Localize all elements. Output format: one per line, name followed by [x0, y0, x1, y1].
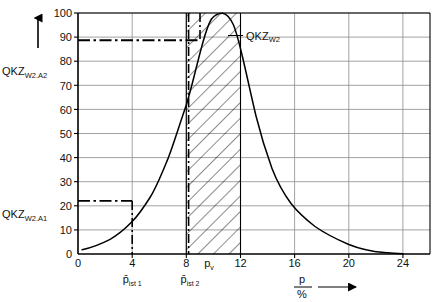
- tolerance-band: [186, 13, 240, 254]
- y-tick-100: 100: [54, 7, 72, 19]
- y-tick-0: 0: [66, 248, 72, 260]
- y-tick-70: 70: [60, 80, 72, 92]
- tolerance-band-hatch: [186, 13, 240, 254]
- x-tick-4: 4: [129, 257, 135, 269]
- y-tick-20: 20: [60, 200, 72, 212]
- chart-figure: QKZW2 100 90 80 70 60 50 40 30 20 10 0: [0, 0, 442, 302]
- y-tick-60: 60: [60, 104, 72, 116]
- y-tick-80: 80: [60, 55, 72, 67]
- curve-label-main: QKZ: [246, 30, 269, 42]
- y-tick-30: 30: [60, 176, 72, 188]
- x-tick-8: 8: [183, 257, 189, 269]
- curve-label-sub: W2: [269, 35, 280, 44]
- qkz-w2-a2-main: QKZ: [2, 65, 25, 77]
- x-tick-20: 20: [343, 257, 355, 269]
- x-axis-label-denominator: %: [297, 288, 307, 300]
- x-tick-24: 24: [397, 257, 409, 269]
- qkz-w2-a1-main: QKZ: [2, 208, 25, 220]
- x-tick-16: 16: [288, 257, 300, 269]
- y-tick-40: 40: [60, 152, 72, 164]
- p-ist-1-sub: ist 1: [129, 280, 142, 287]
- pv-sub: v: [210, 264, 214, 271]
- qkz-response-curve-chart: QKZW2 100 90 80 70 60 50 40 30 20 10 0: [0, 0, 442, 302]
- y-tick-50: 50: [60, 128, 72, 140]
- x-axis-label-numerator: p: [299, 273, 305, 285]
- p-ist-2-sub: ist 2: [187, 280, 200, 287]
- x-tick-12: 12: [234, 257, 246, 269]
- qkz-w2-a2-sub: W2.A2: [25, 71, 48, 80]
- y-tick-90: 90: [60, 31, 72, 43]
- y-tick-10: 10: [60, 224, 72, 236]
- x-tick-0: 0: [75, 257, 81, 269]
- qkz-w2-a1-sub: W2.A1: [25, 214, 48, 223]
